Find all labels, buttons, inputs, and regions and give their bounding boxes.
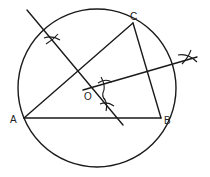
perpendicular-bisector-bc xyxy=(83,57,197,90)
side-ca xyxy=(24,23,133,118)
label-a: A xyxy=(10,114,17,125)
label-b: B xyxy=(164,115,171,126)
perpendicular-bisector-ac xyxy=(27,10,123,125)
label-o: O xyxy=(84,91,92,102)
label-c: C xyxy=(130,11,137,22)
circumcircle-diagram: A B C O xyxy=(0,0,210,177)
